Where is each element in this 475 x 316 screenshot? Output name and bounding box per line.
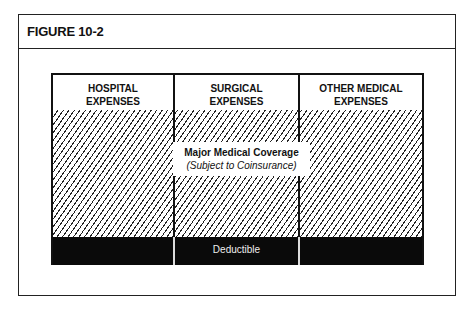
deductible-band <box>298 237 422 265</box>
column-hospital-expenses: HOSPITAL EXPENSES <box>51 73 173 265</box>
coverage-label: Major Medical Coverage <box>173 146 310 159</box>
column-header: SURGICAL EXPENSES <box>175 73 298 110</box>
column-other-medical-expenses: OTHER MEDICAL EXPENSES <box>298 73 424 265</box>
column-header-line: EXPENSES <box>53 95 173 108</box>
column-header: HOSPITAL EXPENSES <box>53 73 173 110</box>
column-header-line: OTHER MEDICAL <box>300 82 422 95</box>
column-header-line: HOSPITAL <box>53 82 173 95</box>
column-header-line: EXPENSES <box>175 95 298 108</box>
coverage-diagram: HOSPITAL EXPENSES SURGICAL EXPENSES Dedu… <box>51 73 424 265</box>
coverage-sublabel: (Subject to Coinsurance) <box>173 159 310 172</box>
deductible-label: Deductible <box>175 244 298 255</box>
column-header-line: SURGICAL <box>175 82 298 95</box>
deductible-band: Deductible <box>173 237 298 265</box>
major-medical-coverage-label: Major Medical Coverage (Subject to Coins… <box>173 142 310 176</box>
column-header-line: EXPENSES <box>300 95 422 108</box>
hatched-coverage-area <box>53 110 173 237</box>
column-header: OTHER MEDICAL EXPENSES <box>300 73 422 110</box>
figure-header: FIGURE 10-2 <box>19 15 455 49</box>
hatched-coverage-area <box>300 110 422 237</box>
deductible-band <box>53 237 173 265</box>
figure-title: FIGURE 10-2 <box>27 24 104 39</box>
